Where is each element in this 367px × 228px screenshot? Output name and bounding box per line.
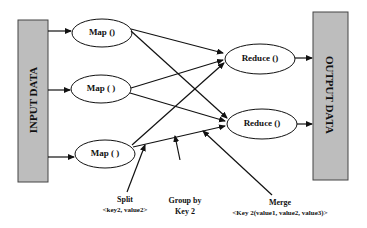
- split-sub: <key2, value2>: [90, 205, 160, 216]
- group-line2: Key 2: [155, 206, 215, 217]
- merge-sub: <Key 2(value1, value2, value3)>: [215, 208, 345, 219]
- group-annotation: Group by Key 2: [155, 195, 215, 217]
- split-annotation: Split <key2, value2>: [90, 194, 160, 216]
- merge-annotation: Merge <Key 2(value1, value2, value3)>: [215, 197, 345, 219]
- group-line1: Group by: [155, 195, 215, 206]
- diagram-canvas: [0, 0, 367, 228]
- merge-title: Merge: [215, 197, 345, 208]
- map-label-2: Map ( ): [71, 83, 131, 93]
- map-label-3: Map ( ): [75, 148, 135, 158]
- output-data-label: OUTPUT DATA: [324, 45, 336, 145]
- reduce-label-2: Reduce (): [227, 118, 297, 128]
- reduce-label-1: Reduce (): [225, 53, 295, 63]
- map-label-1: Map (): [72, 27, 132, 37]
- input-data-label: INPUT DATA: [27, 50, 39, 150]
- split-title: Split: [90, 194, 160, 205]
